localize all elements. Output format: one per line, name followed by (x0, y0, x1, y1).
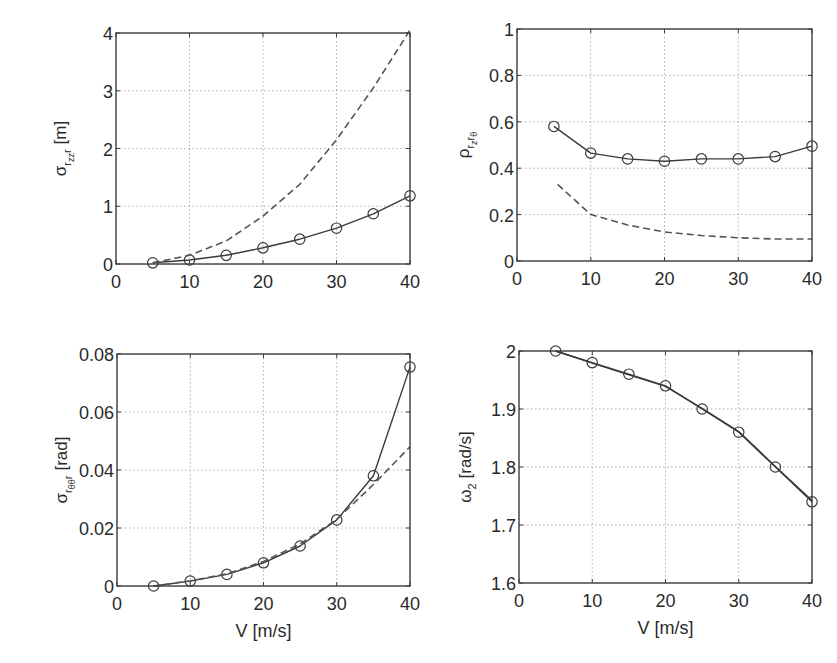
subplot-sigma-theta-theta: 01020304000.020.040.060.08V [m/s]σrθθr[r… (52, 345, 420, 641)
x-tick-label: 10 (582, 591, 602, 611)
x-axis-label: V [m/s] (637, 618, 693, 638)
x-tick-label: 20 (253, 272, 273, 292)
x-tick-label: 40 (802, 591, 822, 611)
x-tick-label: 0 (514, 591, 524, 611)
x-tick-label: 0 (111, 272, 121, 292)
subplot-sigma-zz: 01020304001234σrzzr[m] (51, 24, 420, 292)
x-tick-label: 20 (654, 269, 674, 289)
y-tick-label: 2 (506, 342, 516, 362)
y-tick-label: 0.04 (79, 461, 114, 481)
y-tick-label: 4 (103, 24, 113, 44)
y-tick-label: 0.8 (489, 66, 514, 86)
figure: 01020304001234σrzzr[m] 01020304000.20.40… (0, 0, 837, 663)
y-tick-label: 3 (103, 82, 113, 102)
y-tick-label: 0.4 (489, 159, 514, 179)
subplot-omega-2: 0102030401.61.71.81.92V [m/s]ω2[rad/s] (456, 342, 822, 638)
x-tick-label: 10 (180, 594, 200, 614)
x-tick-label: 30 (327, 594, 347, 614)
x-tick-label: 30 (728, 269, 748, 289)
y-tick-label: 1.9 (491, 400, 516, 420)
x-tick-label: 20 (655, 591, 675, 611)
y-axis-label: ρrzrθ (454, 132, 479, 159)
y-tick-label: 0.08 (79, 345, 114, 365)
x-tick-label: 30 (326, 272, 346, 292)
x-tick-label: 30 (729, 591, 749, 611)
y-axis-label: σrθθr[rad] (52, 437, 77, 504)
y-tick-label: 0.02 (79, 519, 114, 539)
y-tick-label: 2 (103, 140, 113, 160)
y-tick-label: 1.8 (491, 458, 516, 478)
y-tick-label: 1 (504, 20, 514, 40)
y-tick-label: 1 (103, 197, 113, 217)
y-axis-label: ω2[rad/s] (456, 431, 478, 503)
y-tick-label: 0 (103, 255, 113, 275)
y-tick-label: 0.6 (489, 113, 514, 133)
y-tick-label: 0 (504, 252, 514, 272)
x-tick-label: 20 (253, 594, 273, 614)
x-tick-label: 10 (179, 272, 199, 292)
subplot-rho-z-theta: 01020304000.20.40.60.81ρrzrθ (454, 20, 822, 289)
y-tick-label: 0.2 (489, 206, 514, 226)
y-axis-label: σrzzr[m] (51, 121, 76, 176)
x-tick-label: 40 (802, 269, 822, 289)
x-tick-label: 40 (400, 272, 420, 292)
x-tick-label: 0 (112, 594, 122, 614)
x-axis-label: V [m/s] (235, 621, 291, 641)
x-tick-label: 0 (512, 269, 522, 289)
x-tick-label: 40 (400, 594, 420, 614)
y-tick-label: 1.7 (491, 516, 516, 536)
x-tick-label: 10 (581, 269, 601, 289)
y-tick-label: 0.06 (79, 403, 114, 423)
y-tick-label: 0 (104, 577, 114, 597)
y-tick-label: 1.6 (491, 574, 516, 594)
